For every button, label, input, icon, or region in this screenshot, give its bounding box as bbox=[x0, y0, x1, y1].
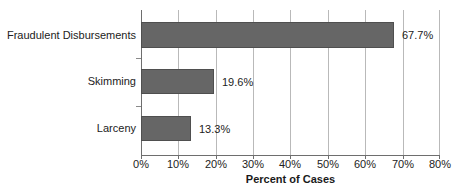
y-axis-tick bbox=[136, 58, 141, 59]
x-tick-label-80: 80% bbox=[429, 158, 451, 170]
x-tick-label-60: 60% bbox=[354, 158, 376, 170]
x-tick-label-70: 70% bbox=[392, 158, 414, 170]
value-label-skimming: 19.6% bbox=[222, 76, 253, 88]
x-tick-label-40: 40% bbox=[279, 158, 301, 170]
bar-chart: Fraudulent Disbursements Skimming Larcen… bbox=[0, 0, 465, 190]
x-tick-label-0: 0% bbox=[133, 158, 149, 170]
category-label-skimming: Skimming bbox=[88, 75, 136, 87]
x-tick-label-10: 10% bbox=[167, 158, 189, 170]
x-axis-title: Percent of Cases bbox=[141, 173, 440, 185]
x-tick-label-20: 20% bbox=[205, 158, 227, 170]
value-label-fraudulent-disbursements: 67.7% bbox=[402, 29, 433, 41]
gridline-80 bbox=[439, 10, 440, 155]
bar-skimming bbox=[141, 69, 214, 94]
bar-fraudulent-disbursements bbox=[141, 22, 394, 48]
plot-area: 67.7% 19.6% 13.3% bbox=[141, 10, 440, 155]
category-label-larceny: Larceny bbox=[97, 122, 136, 134]
category-label-fraudulent-disbursements: Fraudulent Disbursements bbox=[7, 29, 136, 41]
x-tick-label-50: 50% bbox=[317, 158, 339, 170]
y-axis-tick bbox=[136, 106, 141, 107]
x-tick-label-30: 30% bbox=[242, 158, 264, 170]
bar-larceny bbox=[141, 116, 191, 141]
value-label-larceny: 13.3% bbox=[199, 123, 230, 135]
